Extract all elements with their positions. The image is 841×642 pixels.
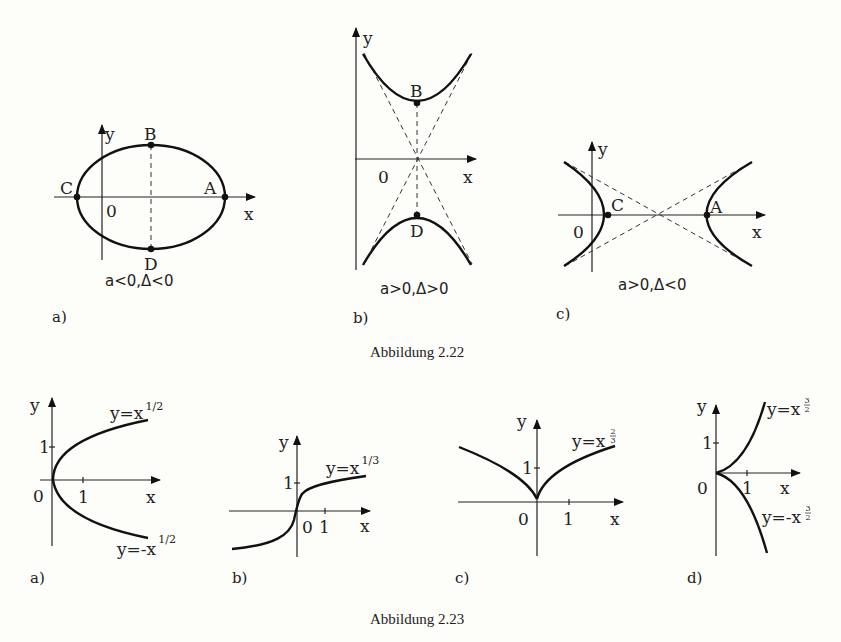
figure-caption-2-23: Abbildung 2.23	[370, 611, 464, 627]
x-axis-label: x	[146, 487, 156, 507]
y-axis-label: y	[362, 28, 373, 48]
curve-right-branch	[537, 446, 615, 499]
x-axis-label: x	[610, 509, 620, 529]
curve-label: y=x1/3	[325, 454, 379, 478]
x-axis-label: x	[463, 167, 473, 187]
exponent-numerator: 2	[610, 427, 615, 436]
hyperbola-left-branch	[564, 162, 604, 266]
origin-label: 0	[697, 478, 708, 498]
y-axis-label: y	[696, 396, 707, 416]
y-tick-label: 1	[283, 473, 294, 493]
exponent-denominator: 2	[805, 513, 810, 522]
exponent-numerator: 3	[804, 396, 809, 405]
fig223-panel-b: y x 0 1 1 y=x1/3 b)	[229, 432, 379, 587]
point-c	[74, 194, 81, 201]
x-tick-label: 1	[563, 509, 574, 529]
curve-sqrt-negative	[53, 480, 148, 538]
fig222-panel-b: y x 0 B D a>0,Δ>0 b)	[353, 28, 476, 327]
point-c-label: C	[611, 195, 624, 215]
origin-label: 0	[518, 509, 529, 529]
point-d	[148, 246, 155, 253]
y-tick-label: 1	[39, 437, 50, 457]
x-axis-label: x	[244, 204, 254, 224]
curve-sqrt-positive	[53, 420, 148, 480]
origin-label: 0	[33, 486, 44, 506]
exponent-denominator: 3	[610, 436, 615, 445]
y-tick-label: 1	[522, 458, 533, 478]
fig223-panel-c: y x 0 1 1 y=x 2 3 c)	[455, 411, 623, 587]
exponent-numerator: 3	[805, 504, 810, 513]
point-b-label: B	[144, 124, 157, 144]
point-a-label: A	[709, 197, 723, 217]
origin-label: 0	[573, 222, 584, 242]
x-tick-label: 1	[742, 478, 753, 498]
curve-label: y=x	[571, 431, 606, 451]
fig222-panel-a: y x 0 B D C A a<0,Δ<0 a)	[52, 124, 255, 326]
point-c-label: C	[60, 178, 73, 198]
x-tick-label: 1	[319, 517, 330, 537]
x-axis-label: x	[780, 478, 790, 498]
point-a	[222, 194, 229, 201]
panel-label: d)	[687, 569, 702, 587]
origin-label: 0	[302, 517, 313, 537]
origin-label: 0	[378, 167, 389, 187]
fig222-panel-c: y x 0 C A a>0,Δ<0 c)	[556, 139, 765, 323]
curve-label-positive: y=x1/2	[109, 400, 163, 423]
curve-cube-root	[232, 476, 366, 549]
figure-caption-2-22: Abbildung 2.22	[370, 344, 464, 360]
fig223-panel-d: y x 0 1 1 y=x 3 2 y=-x 3 2 d)	[687, 396, 811, 587]
panel-label: b)	[232, 569, 247, 587]
y-axis-label: y	[104, 124, 115, 144]
y-axis-label: y	[516, 411, 527, 431]
panel-label: c)	[455, 569, 469, 587]
point-d-label: D	[144, 254, 158, 274]
exponent-denominator: 2	[804, 405, 809, 414]
y-axis-label: y	[29, 395, 40, 415]
point-a-label: A	[203, 178, 217, 198]
y-axis-label: y	[278, 432, 289, 452]
condition-label: a>0,Δ>0	[380, 280, 448, 298]
panel-label: a)	[30, 569, 45, 587]
curve-label-positive: y=x	[766, 399, 801, 419]
figure-page: y x 0 B D C A a<0,Δ<0 a) y x 0 B D a>0,Δ…	[0, 0, 841, 642]
fig223-panel-a: y x 0 1 1 y=x1/2 y=-x1/2 a)	[29, 395, 176, 587]
curve-label-negative: y=-x	[761, 507, 802, 527]
point-d	[414, 212, 421, 219]
origin-label: 0	[106, 201, 117, 221]
x-tick-label: 1	[78, 487, 89, 507]
panel-label: c)	[556, 305, 570, 323]
x-axis-label: x	[752, 222, 762, 242]
condition-label: a<0,Δ<0	[105, 272, 173, 290]
y-axis-label: y	[597, 139, 608, 159]
panel-label: a)	[52, 308, 67, 326]
x-axis-label: x	[360, 516, 370, 536]
y-tick-label: 1	[702, 433, 713, 453]
condition-label: a>0,Δ<0	[618, 276, 686, 294]
point-b-label: B	[410, 81, 423, 101]
point-d-label: D	[410, 221, 424, 241]
panel-label: b)	[353, 309, 368, 327]
curve-positive-branch	[716, 402, 765, 473]
